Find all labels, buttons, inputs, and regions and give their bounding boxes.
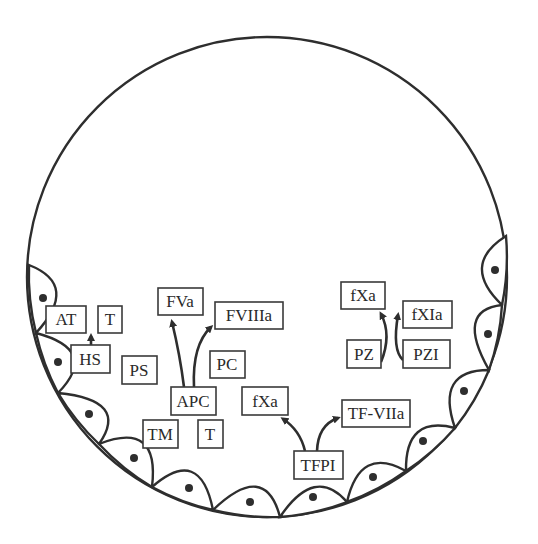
nucleus-icon: [130, 454, 138, 462]
label-ps: PS: [130, 361, 149, 380]
label-t: T: [105, 310, 116, 329]
arrow-tfpi-to-tfviia: [317, 418, 338, 451]
nucleus-icon: [85, 410, 93, 418]
nucleus-icon: [185, 484, 193, 492]
nucleus-icon: [484, 330, 492, 338]
box-tfpi: TFPI: [294, 451, 343, 479]
box-pc: PC: [210, 351, 245, 378]
label-fxa: fXa: [350, 286, 376, 305]
nucleus-icon: [419, 437, 427, 445]
endothelial-cells: [29, 236, 507, 517]
label-pc: PC: [217, 355, 238, 374]
nucleus-icon: [309, 493, 317, 501]
label-pz: PZ: [354, 345, 374, 364]
nucleus-icon: [491, 266, 499, 274]
label-hs: HS: [79, 350, 101, 369]
box-tf-viia: TF-VIIa: [342, 400, 410, 427]
box-t-bottom: T: [198, 420, 223, 448]
endothelial-cell: [58, 393, 108, 444]
box-ps: PS: [122, 356, 157, 384]
box-fviiia: FVIIIa: [215, 302, 283, 329]
nucleus-icon: [39, 294, 47, 302]
endothelial-cell: [450, 370, 489, 428]
box-tm: TM: [143, 420, 178, 448]
endothelial-cell: [280, 487, 347, 517]
box-hs: HS: [71, 345, 110, 373]
box-fxia: fXIa: [403, 301, 452, 328]
label-at: AT: [56, 310, 77, 329]
label-t: T: [205, 425, 216, 444]
label-fva: FVa: [166, 292, 194, 311]
nucleus-icon: [246, 498, 254, 506]
nucleus-icon: [54, 358, 62, 366]
box-fxa-mid: fXa: [242, 387, 288, 415]
box-pzi: PZI: [403, 340, 450, 368]
arrow-pz-to-fxa: [381, 314, 387, 362]
endothelial-cell: [347, 463, 406, 502]
label-fxa: fXa: [252, 392, 278, 411]
arrow-apc-to-fviiia: [194, 327, 211, 387]
label-tfpi: TFPI: [301, 456, 336, 475]
arrow-apc-to-fva: [172, 322, 184, 387]
arrow-tfpi-to-fxa: [283, 419, 305, 451]
label-pzi: PZI: [413, 345, 439, 364]
label-fxia: fXIa: [411, 305, 443, 324]
box-pz: PZ: [347, 340, 381, 368]
label-apc: APC: [176, 392, 209, 411]
box-at: AT: [46, 306, 86, 333]
arrow-pzi-to-fxia: [396, 315, 403, 360]
box-t-top: T: [98, 306, 122, 333]
anticoagulant-diagram: AT T HS PS FVa FVIIIa PC APC TM T fXa: [0, 0, 538, 544]
box-fxa-top: fXa: [341, 282, 385, 309]
nucleus-icon: [369, 473, 377, 481]
endothelial-cell: [152, 471, 213, 510]
box-fva: FVa: [158, 288, 203, 315]
label-tm: TM: [147, 425, 173, 444]
nucleus-icon: [460, 387, 468, 395]
endothelial-cell: [406, 426, 455, 471]
box-apc: APC: [171, 387, 216, 415]
label-tf-viia: TF-VIIa: [348, 404, 405, 423]
label-fviiia: FVIIIa: [226, 306, 273, 325]
